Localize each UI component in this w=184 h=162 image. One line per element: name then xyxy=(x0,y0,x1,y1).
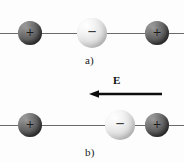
charge-sign-positive: + xyxy=(153,25,162,40)
negative-charge-center-a: − xyxy=(77,18,107,48)
panel-caption-a: a) xyxy=(85,54,94,66)
positive-charge-right-a: + xyxy=(145,21,169,45)
positive-charge-right-b: + xyxy=(145,113,169,137)
electric-field-arrow-icon xyxy=(88,88,164,100)
electric-field-label: E xyxy=(113,74,121,86)
charge-sign-positive: + xyxy=(153,117,162,132)
dipole-polarization-figure: + − + a) E + − + b) xyxy=(0,0,184,162)
charge-sign-positive: + xyxy=(26,25,35,40)
positive-charge-left-b: + xyxy=(18,113,42,137)
positive-charge-left-a: + xyxy=(18,21,42,45)
charge-sign-negative: − xyxy=(115,116,124,132)
panel-caption-b: b) xyxy=(85,146,95,158)
negative-charge-center-b: − xyxy=(105,110,135,140)
charge-sign-positive: + xyxy=(26,117,35,132)
charge-sign-negative: − xyxy=(87,24,96,40)
